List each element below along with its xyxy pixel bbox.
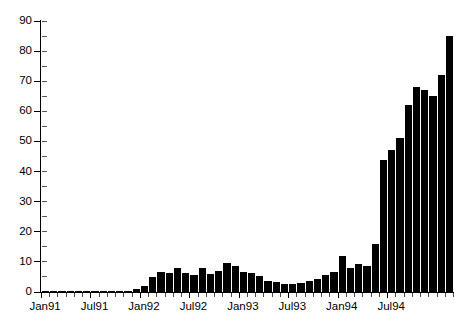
x-axis-tick xyxy=(387,293,388,298)
x-axis-tick xyxy=(156,293,157,297)
bar xyxy=(321,275,329,292)
y-axis-tick-label: 50 xyxy=(4,135,32,147)
x-axis-tick-label: Jan91 xyxy=(29,300,60,313)
y-axis-tick-label: 40 xyxy=(4,166,32,178)
bar xyxy=(445,36,453,292)
x-axis-tick xyxy=(82,293,83,297)
y-axis-tick-label: 90 xyxy=(4,15,32,27)
x-axis-tick xyxy=(346,293,347,297)
x-axis-tick xyxy=(181,293,182,297)
bar-chart: 0102030405060708090 Jan91Jul91Jan92Jul92… xyxy=(0,0,464,329)
x-axis-tick xyxy=(206,293,207,297)
bar xyxy=(395,138,403,292)
bar xyxy=(288,284,296,292)
bar xyxy=(173,268,181,292)
bar xyxy=(338,256,346,292)
x-axis-tick xyxy=(428,293,429,297)
x-axis-tick xyxy=(231,293,232,297)
bar xyxy=(313,279,321,292)
bar xyxy=(165,273,173,292)
x-axis-tick xyxy=(395,293,396,297)
x-axis-tick-label: Jul92 xyxy=(180,300,208,313)
bar xyxy=(181,273,189,292)
x-axis-tick xyxy=(222,293,223,297)
x-axis-tick xyxy=(49,293,50,297)
bar xyxy=(280,284,288,292)
x-axis-tick-label: Jan93 xyxy=(227,300,258,313)
y-axis-tick-label: 80 xyxy=(4,45,32,57)
bar xyxy=(420,90,428,292)
x-axis-tick-label: Jul94 xyxy=(377,300,405,313)
y-axis-tick-label: 10 xyxy=(4,256,32,268)
plot-area xyxy=(41,21,453,292)
x-axis-tick xyxy=(288,293,289,298)
x-axis-tick xyxy=(305,293,306,297)
bar xyxy=(412,87,420,292)
x-axis-tick xyxy=(198,293,199,297)
bar xyxy=(428,96,436,292)
x-axis-tick xyxy=(140,293,141,298)
bar xyxy=(214,271,222,292)
x-axis-tick xyxy=(272,293,273,297)
bar xyxy=(231,266,239,292)
x-axis-tick xyxy=(165,293,166,297)
x-axis-tick xyxy=(445,293,446,297)
x-axis-tick xyxy=(453,293,454,297)
x-axis-tick xyxy=(371,293,372,297)
bar xyxy=(272,282,280,292)
x-axis-tick xyxy=(412,293,413,297)
bar xyxy=(189,275,197,292)
bar xyxy=(362,266,370,292)
x-axis-tick-label: Jul93 xyxy=(279,300,307,313)
x-axis-tick xyxy=(329,293,330,297)
x-axis-tick-label: Jan92 xyxy=(128,300,159,313)
x-axis-tick xyxy=(132,293,133,297)
x-axis-tick xyxy=(173,293,174,297)
x-axis-tick xyxy=(255,293,256,297)
x-axis-tick xyxy=(41,293,42,298)
bar xyxy=(156,272,164,292)
bar xyxy=(222,263,230,292)
x-axis-tick xyxy=(66,293,67,297)
bar xyxy=(346,268,354,292)
x-axis-tick xyxy=(321,293,322,297)
bar xyxy=(404,105,412,292)
y-axis-tick-label: 0 xyxy=(4,286,32,298)
x-axis-tick xyxy=(354,293,355,297)
x-axis-tick xyxy=(338,293,339,298)
x-axis-tick xyxy=(239,293,240,298)
y-axis-tick-label: 20 xyxy=(4,226,32,238)
x-axis-tick xyxy=(90,293,91,298)
bar xyxy=(148,277,156,292)
bar xyxy=(387,150,395,292)
bar xyxy=(354,264,362,292)
x-axis-tick xyxy=(404,293,405,297)
x-axis-tick xyxy=(362,293,363,297)
x-axis-tick xyxy=(57,293,58,297)
x-axis-tick xyxy=(214,293,215,297)
x-axis-tick xyxy=(123,293,124,297)
x-axis-tick xyxy=(115,293,116,297)
x-axis-tick xyxy=(107,293,108,297)
bar xyxy=(371,244,379,292)
x-axis-tick xyxy=(263,293,264,297)
y-axis-tick-labels: 0102030405060708090 xyxy=(0,0,32,329)
x-axis-tick xyxy=(437,293,438,297)
bar xyxy=(263,281,271,292)
x-axis-tick xyxy=(148,293,149,297)
bar xyxy=(255,276,263,292)
bar xyxy=(247,273,255,292)
bar xyxy=(206,274,214,292)
bar xyxy=(305,281,313,292)
x-axis-tick-label: Jan94 xyxy=(326,300,357,313)
bar xyxy=(329,272,337,292)
bar xyxy=(379,160,387,292)
x-axis-tick xyxy=(280,293,281,297)
bar xyxy=(296,283,304,292)
y-axis-tick-label: 60 xyxy=(4,105,32,117)
x-axis-tick xyxy=(247,293,248,297)
x-axis-tick-label: Jul91 xyxy=(81,300,109,313)
x-axis-tick xyxy=(379,293,380,297)
y-axis-tick-label: 30 xyxy=(4,196,32,208)
x-axis-tick xyxy=(189,293,190,298)
